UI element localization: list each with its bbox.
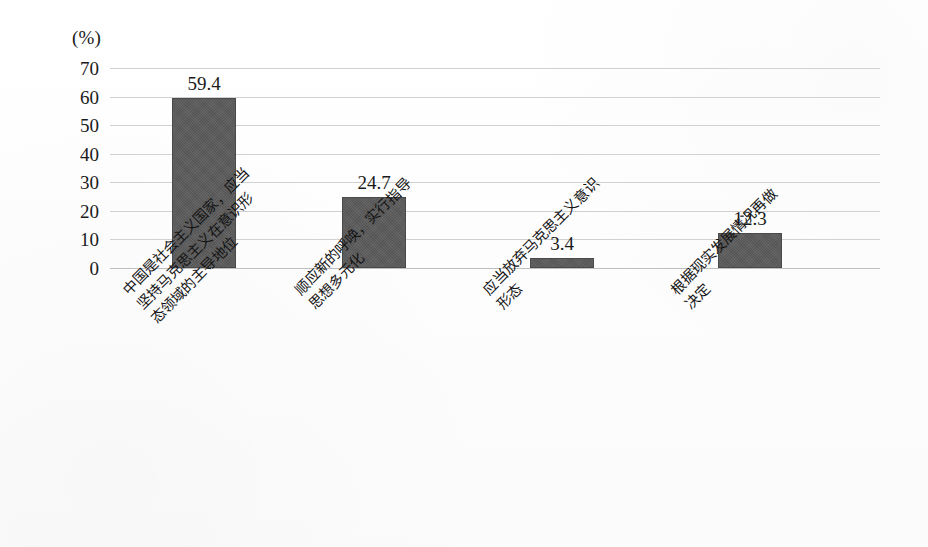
y-axis-tick-label: 40 (80, 144, 99, 163)
y-axis-tick-label: 30 (80, 173, 99, 192)
y-axis-tick-label: 0 (90, 259, 100, 278)
bar-value-label: 59.4 (187, 74, 220, 93)
y-axis-tick-label: 60 (80, 87, 99, 106)
y-axis-unit-label: (%) (72, 28, 101, 47)
y-axis-tick-label: 70 (80, 59, 99, 78)
y-axis-tick-label: 50 (80, 116, 99, 135)
y-axis-tick-label: 20 (80, 201, 99, 220)
y-axis-tick-label: 10 (80, 230, 99, 249)
bar-chart: (%) 706050403020100 59.424.73.412.3 中国是社… (0, 0, 928, 547)
